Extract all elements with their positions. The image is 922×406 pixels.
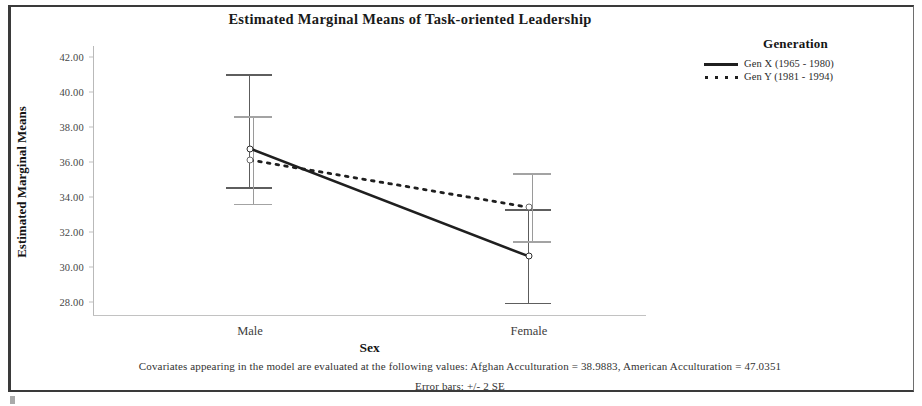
legend-item-gen-x: Gen X (1965 - 1980) [704, 58, 903, 69]
y-tick-label: 34.00 [59, 191, 84, 202]
error-bars-note: Error bars: +/- 2 SE [20, 380, 900, 392]
data-point-marker [526, 204, 533, 211]
y-tick-label: 38.00 [59, 121, 84, 132]
plot-area: 42.0040.0038.0036.0034.0032.0030.0028.00… [93, 46, 646, 316]
x-tick-label: Female [511, 324, 548, 339]
gen-y-line [250, 160, 529, 207]
x-axis-title: Sex [93, 340, 646, 356]
solid-line-icon [704, 59, 738, 69]
legend-title: Generation [688, 36, 903, 52]
y-axis-title: Estimated Marginal Means [14, 92, 30, 272]
y-tick-label: 32.00 [59, 226, 84, 237]
gen-x-line [250, 149, 529, 257]
y-tick-label: 42.00 [59, 51, 84, 62]
data-point-marker [526, 253, 533, 260]
y-tick-label: 40.00 [59, 86, 84, 97]
legend: Generation Gen X (1965 - 1980) Gen Y (19… [688, 36, 903, 84]
dotted-line-icon [704, 72, 738, 82]
y-tick-label: 36.00 [59, 156, 84, 167]
scan-artifact [10, 396, 15, 404]
x-tick-label: Male [237, 324, 263, 339]
y-tick-label: 28.00 [59, 296, 84, 307]
data-point-marker [247, 145, 254, 152]
covariates-note: Covariates appearing in the model are ev… [20, 360, 900, 372]
y-tick-label: 30.00 [59, 261, 84, 272]
legend-item-gen-y: Gen Y (1981 - 1994) [704, 71, 903, 82]
series-lines [93, 46, 646, 316]
chart-title: Estimated Marginal Means of Task-oriente… [100, 11, 720, 28]
legend-label-gen-y: Gen Y (1981 - 1994) [744, 71, 833, 82]
legend-label-gen-x: Gen X (1965 - 1980) [744, 58, 834, 69]
data-point-marker [247, 156, 254, 163]
